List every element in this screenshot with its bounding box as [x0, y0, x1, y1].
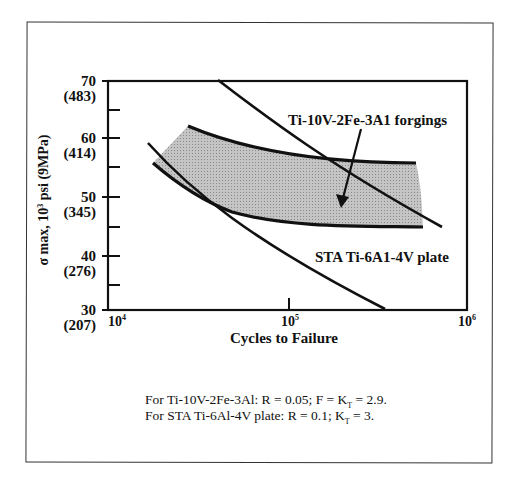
y-axis-title: σ max, 103 psi (9MPa): [36, 135, 53, 266]
y-tick-label: 60(414): [56, 131, 96, 161]
forgings-scatter-band: [153, 126, 423, 227]
y-tick-label: 40(276): [56, 249, 96, 279]
y-tick-label: 30(207): [56, 303, 96, 333]
forgings-label: Ti-10V-2Fe-3A1 forgings: [288, 112, 447, 129]
x-axis-title: Cycles to Failure: [230, 330, 338, 347]
plate-label: STA Ti-6A1-4V plate: [315, 249, 449, 266]
x-tick-label: 104: [108, 313, 126, 330]
x-tick-label: 105: [281, 313, 299, 330]
x-tick-label: 106: [458, 313, 476, 330]
y-axis-ticks: [102, 81, 120, 310]
footnote-plate: For STA Ti-6Al-4V plate: R = 0.1; KT = 3…: [145, 408, 374, 426]
y-tick-label: 70(483): [56, 74, 96, 104]
y-tick-label: 50(345): [56, 190, 96, 220]
